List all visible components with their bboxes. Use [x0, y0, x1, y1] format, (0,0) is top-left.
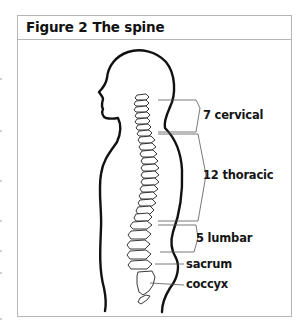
cervical-vertebrae: [134, 94, 152, 136]
label-coccyx: coccyx: [186, 277, 228, 291]
label-sacrum: sacrum: [186, 257, 232, 271]
label-lumbar: 5 lumbar: [196, 231, 252, 245]
label-cervical: 7 cervical: [203, 108, 263, 122]
spine-illustration: [0, 0, 305, 330]
coccyx-bone: [138, 295, 150, 304]
spine: [127, 94, 159, 304]
label-thoracic: 12 thoracic: [203, 168, 273, 182]
thoracic-vertebrae: [134, 136, 159, 221]
lumbar-vertebrae: [127, 221, 152, 269]
